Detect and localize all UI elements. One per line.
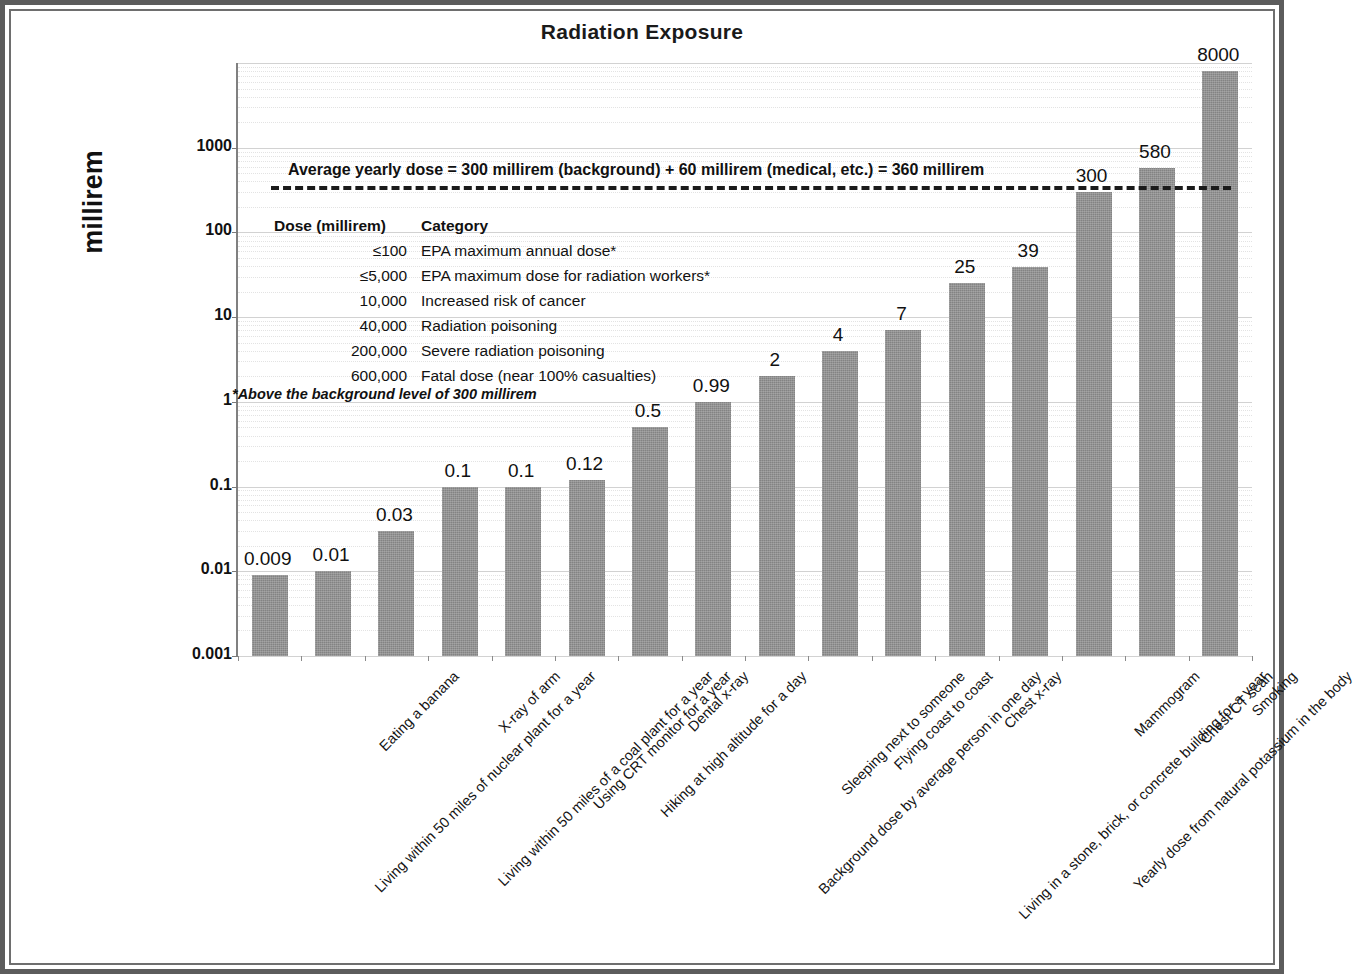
x-axis-category-label: Living within 50 miles of nuclear plant …: [371, 668, 598, 895]
y-axis-tick-label: 1: [223, 391, 232, 409]
bar-value-label: 4: [783, 324, 893, 346]
bar: [885, 330, 921, 656]
y-axis-title: millirem: [78, 122, 109, 282]
x-axis-tick-mark: [365, 656, 366, 661]
average-dose-line: [271, 186, 1231, 190]
bar: [1012, 267, 1048, 656]
bar: [315, 571, 351, 656]
x-axis-tick-mark: [745, 656, 746, 661]
y-axis-tick-mark: [232, 487, 238, 488]
x-axis-tick-mark: [872, 656, 873, 661]
y-axis-tick-mark: [232, 571, 238, 572]
gridline-minor: [238, 67, 1252, 68]
dose-table-cell-category: EPA maximum annual dose*: [421, 239, 710, 264]
dose-table-row: ≤5,000EPA maximum dose for radiation wor…: [272, 264, 710, 289]
dose-table-row: ≤100EPA maximum annual dose*: [272, 239, 710, 264]
dose-table-cell-dose: ≤100: [272, 239, 421, 264]
dose-table-cell-dose: ≤5,000: [272, 264, 421, 289]
x-axis-tick-mark: [301, 656, 302, 661]
dose-table-cell-category: EPA maximum dose for radiation workers*: [421, 264, 710, 289]
x-axis-tick-mark: [618, 656, 619, 661]
gridline-minor: [238, 71, 1252, 72]
gridline-minor: [238, 76, 1252, 77]
x-axis-tick-mark: [1062, 656, 1063, 661]
y-axis-tick-label: 1000: [196, 137, 232, 155]
x-axis-category-label: Eating a banana: [376, 668, 462, 754]
dose-table-header-category: Category: [421, 214, 710, 239]
bar: [759, 376, 795, 656]
bar: [505, 487, 541, 656]
x-axis-tick-mark: [1189, 656, 1190, 661]
bar: [1139, 168, 1175, 656]
chart-title: Radiation Exposure: [0, 20, 1284, 44]
dose-table-row: 200,000Severe radiation poisoning: [272, 339, 710, 364]
x-axis-tick-mark: [1125, 656, 1126, 661]
x-axis-tick-mark: [808, 656, 809, 661]
gridline-minor: [238, 122, 1252, 123]
y-axis-tick-mark: [232, 232, 238, 233]
dose-table-cell-category: Increased risk of cancer: [421, 289, 710, 314]
dose-table-header-row: Dose (millirem) Category: [272, 214, 710, 239]
dose-table-cell-dose: 40,000: [272, 314, 421, 339]
x-axis-tick-mark: [555, 656, 556, 661]
y-axis-tick-label: 10: [214, 306, 232, 324]
bar-value-label: 300: [1037, 165, 1147, 187]
dose-table-cell-dose: 10,000: [272, 289, 421, 314]
gridline-major: [238, 63, 1252, 64]
x-axis-category-label: Using CRT monitor for a year: [590, 668, 734, 812]
bar-value-label: 0.12: [530, 453, 640, 475]
bar-value-label: 0.03: [339, 504, 449, 526]
y-axis-tick-label: 0.001: [192, 645, 232, 663]
dose-table-footnote: *Above the background level of 300 milli…: [232, 386, 537, 402]
bar-value-label: 39: [973, 240, 1083, 262]
bar: [949, 283, 985, 656]
dose-table-row: 40,000Radiation poisoning: [272, 314, 710, 339]
x-axis-tick-mark: [492, 656, 493, 661]
dose-table-row: 10,000Increased risk of cancer: [272, 289, 710, 314]
average-dose-annotation: Average yearly dose = 300 millirem (back…: [288, 161, 984, 179]
gridline-minor: [238, 82, 1252, 83]
bar: [695, 402, 731, 656]
x-axis-tick-mark: [1252, 656, 1253, 661]
bar: [252, 575, 288, 656]
gridline-minor: [238, 89, 1252, 90]
bar: [569, 480, 605, 656]
dose-table-cell-dose: 200,000: [272, 339, 421, 364]
gridline-minor: [238, 107, 1252, 108]
y-axis-tick-label: 0.1: [210, 476, 232, 494]
x-axis-tick-mark: [682, 656, 683, 661]
bar-value-label: 7: [846, 303, 956, 325]
y-axis-tick-mark: [232, 317, 238, 318]
x-axis-tick-mark: [238, 656, 239, 661]
bar-value-label: 0.01: [276, 544, 386, 566]
gridline-minor: [238, 97, 1252, 98]
bar-value-label: 2: [720, 349, 830, 371]
bar: [822, 351, 858, 656]
y-axis-tick-mark: [232, 148, 238, 149]
y-axis-tick-label: 100: [205, 221, 232, 239]
bar-value-label: 0.5: [593, 400, 703, 422]
x-axis-tick-mark: [428, 656, 429, 661]
dose-category-table: Dose (millirem) Category ≤100EPA maximum…: [272, 214, 710, 389]
dose-table-header-dose: Dose (millirem): [272, 214, 421, 239]
dose-table-cell-category: Radiation poisoning: [421, 314, 710, 339]
x-axis-tick-mark: [999, 656, 1000, 661]
x-axis-category-label: Mammogram: [1131, 668, 1203, 740]
dose-table-cell-category: Severe radiation poisoning: [421, 339, 710, 364]
x-axis-category-label: Sleeping next to someone: [838, 668, 968, 798]
bar-value-label: 8000: [1163, 44, 1273, 66]
bar-value-label: 580: [1100, 141, 1210, 163]
x-axis-tick-mark: [935, 656, 936, 661]
